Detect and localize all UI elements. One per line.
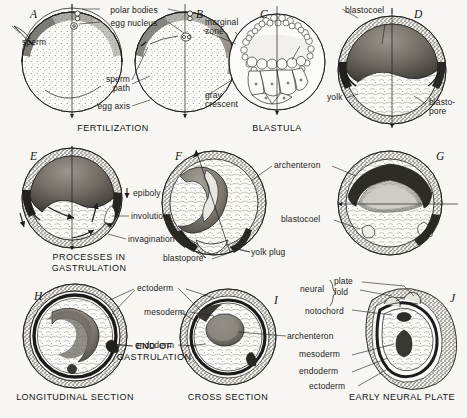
- caption-fertilization: FERTILIZATION: [77, 123, 149, 134]
- label-blastocoel-g: blastocoel: [281, 215, 320, 224]
- panel-letter-a: A: [30, 8, 37, 20]
- caption-processes-line2: GASTRULATION: [52, 263, 127, 274]
- label-sperm-path-line2: path: [106, 84, 130, 93]
- label-yolk: yolk: [327, 93, 343, 102]
- label-endoderm-j: endoderm: [299, 367, 338, 376]
- panel-letter-c: C: [260, 8, 268, 20]
- label-polar-bodies: polar bodies: [110, 6, 158, 15]
- label-mesoderm-j: mesoderm: [299, 350, 340, 359]
- panel-letter-h: H: [34, 290, 42, 302]
- label-invagination: invagination: [128, 235, 175, 244]
- label-blastopore-d-line2: pore: [429, 107, 455, 116]
- panel-letter-f: F: [175, 150, 182, 162]
- panel-letter-i: I: [274, 294, 278, 306]
- label-marginal-zone: marginal zone: [205, 18, 238, 35]
- panel-letter-g: G: [436, 150, 444, 162]
- label-neural-fold: fold: [334, 288, 348, 297]
- label-involution: involution: [131, 212, 168, 221]
- embryology-figure: A B C D E F G H I J polar bodies egg nuc…: [0, 0, 467, 418]
- caption-end-line1: END OF: [117, 341, 192, 352]
- label-notochord: notochord: [305, 307, 344, 316]
- caption-end-of-gastrulation: END OF GASTRULATION: [117, 341, 192, 363]
- label-yolk-plug: yolk plug: [251, 248, 285, 257]
- label-neural-plate: plate: [334, 277, 353, 286]
- label-sperm-path: sperm path: [106, 75, 130, 92]
- caption-early-neural-plate: EARLY NEURAL PLATE: [349, 392, 455, 403]
- label-blastocoel-d: blastocoel: [345, 6, 384, 15]
- label-archenteron-i: archenteron: [287, 332, 333, 341]
- label-gray-crescent: gray crescent: [205, 91, 238, 108]
- figure-artwork: [0, 0, 467, 418]
- panel-letter-d: D: [414, 8, 422, 20]
- label-blastopore-d: blasto- pore: [429, 98, 455, 115]
- label-ectoderm-h: ectoderm: [137, 284, 173, 293]
- label-gray-crescent-line2: crescent: [205, 100, 238, 109]
- panel-letter-b: B: [196, 8, 203, 20]
- label-marginal-zone-line2: zone: [205, 27, 238, 36]
- caption-processes-in-gastrulation: PROCESSES IN GASTRULATION: [52, 252, 127, 274]
- label-blastopore-f: blastopore: [163, 254, 204, 263]
- panel-g-art: [334, 151, 458, 255]
- label-epiboly: epiboly: [133, 189, 161, 198]
- label-neural: neural: [300, 285, 324, 294]
- label-mesoderm-h: mesoderm: [144, 308, 185, 317]
- panel-i-art: [178, 288, 286, 385]
- caption-longitudinal-section: LONGITUDINAL SECTION: [16, 392, 134, 403]
- panel-c-art: [229, 6, 325, 115]
- label-egg-nucleus: egg nucleus: [111, 19, 158, 28]
- label-sperm: sperm: [22, 38, 46, 47]
- label-archenteron-f: archenteron: [274, 161, 320, 170]
- label-egg-axis: egg axis: [98, 102, 130, 111]
- caption-cross-section: CROSS SECTION: [188, 392, 268, 403]
- panel-f-art: [162, 150, 266, 259]
- panel-letter-e: E: [30, 150, 37, 162]
- panel-letter-j: J: [450, 292, 455, 304]
- caption-end-line2: GASTRULATION: [117, 352, 192, 363]
- caption-blastula: BLASTULA: [252, 123, 302, 134]
- caption-processes-line1: PROCESSES IN: [52, 252, 127, 263]
- panel-j-art: [330, 280, 457, 390]
- label-ectoderm-j: ectoderm: [309, 382, 345, 391]
